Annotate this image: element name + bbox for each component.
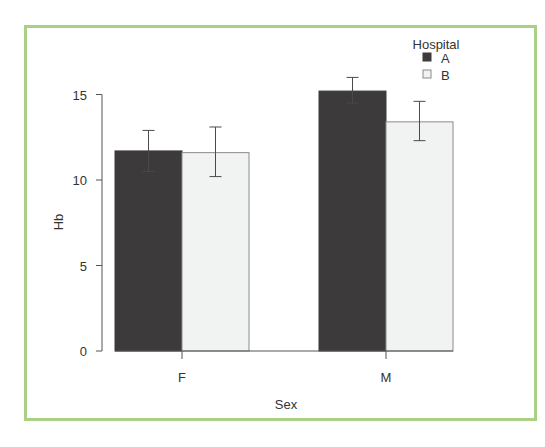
y-tick-label: 10: [73, 173, 87, 188]
legend-swatch-B: [423, 70, 431, 78]
y-tick-label: 15: [73, 88, 87, 103]
bar-M-A: [319, 91, 386, 351]
x-tick-label-F: F: [178, 370, 186, 385]
legend-label-B: B: [441, 68, 450, 83]
legend-swatch-A: [423, 53, 431, 61]
x-axis: FM: [178, 351, 391, 385]
bar-M-B: [386, 122, 453, 351]
y-tick-label: 5: [80, 259, 87, 274]
bar-F-A: [115, 151, 182, 351]
bar-F-B: [182, 153, 249, 351]
y-axis-title: Hb: [51, 214, 66, 231]
y-tick-label: 0: [80, 344, 87, 359]
bars: [115, 77, 453, 351]
y-axis: 051015: [73, 88, 102, 360]
x-axis-title: Sex: [275, 397, 298, 412]
bar-chart: 051015 FM Hb Sex Hospital AB: [0, 0, 545, 447]
legend: Hospital AB: [413, 37, 460, 83]
x-tick-label-M: M: [381, 370, 392, 385]
legend-title: Hospital: [413, 37, 460, 52]
legend-label-A: A: [441, 51, 450, 66]
